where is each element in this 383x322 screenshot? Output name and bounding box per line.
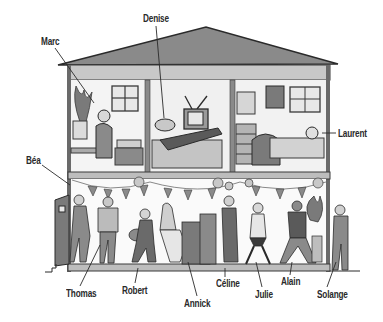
label-solange: Solange	[317, 289, 348, 300]
label-denise: Denise	[143, 13, 169, 24]
ceiling-band	[68, 65, 330, 80]
label-thomas: Thomas	[66, 288, 96, 299]
door	[55, 195, 69, 266]
person-marc	[96, 110, 112, 158]
label-julie: Julie	[255, 289, 273, 300]
house-illustration: Marc Denise Laurent Béa Thomas Robert An…	[0, 0, 383, 322]
house-drawing	[0, 0, 383, 322]
person-solange	[332, 205, 348, 270]
computer-icon	[73, 121, 87, 139]
poster	[266, 86, 284, 108]
right-wall	[326, 65, 330, 272]
roof	[58, 27, 338, 65]
label-laurent: Laurent	[338, 128, 367, 139]
label-robert: Robert	[122, 285, 147, 296]
divider-2	[230, 80, 235, 174]
door-steps	[45, 264, 56, 272]
window-right	[290, 87, 320, 112]
label-celine: Céline	[216, 278, 240, 289]
bed-left	[115, 140, 143, 165]
label-alain: Alain	[281, 276, 300, 287]
label-annick: Annick	[184, 298, 210, 309]
window-left	[112, 86, 138, 111]
middle-floor	[68, 172, 330, 179]
label-bea: Béa	[26, 155, 41, 166]
label-marc: Marc	[41, 36, 59, 47]
divider-1	[145, 80, 150, 174]
